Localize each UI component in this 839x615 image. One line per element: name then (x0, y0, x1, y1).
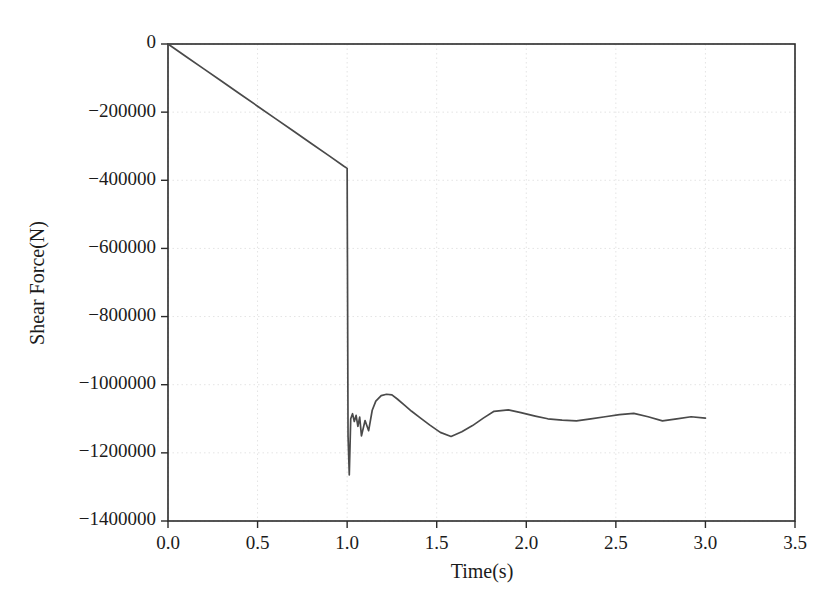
x-axis-title: Time(s) (451, 560, 514, 583)
x-tick-label: 1.5 (425, 532, 449, 553)
y-tick-label: −1400000 (79, 508, 156, 529)
chart-figure: 0.00.51.01.52.02.53.03.50−200000−400000−… (0, 0, 839, 615)
x-tick-label: 3.5 (783, 532, 807, 553)
y-tick-label: −1000000 (79, 372, 156, 393)
x-tick-label: 2.5 (604, 532, 628, 553)
y-tick-label: −600000 (88, 236, 156, 257)
y-tick-label: −400000 (88, 168, 156, 189)
y-tick-label: −200000 (88, 100, 156, 121)
shear-force-time-plot: 0.00.51.01.52.02.53.03.50−200000−400000−… (0, 0, 839, 615)
x-tick-label: 2.0 (514, 532, 538, 553)
y-axis-title: Shear Force(N) (26, 221, 49, 345)
x-tick-label: 3.0 (694, 532, 718, 553)
y-tick-label: −800000 (88, 304, 156, 325)
y-tick-label: 0 (147, 31, 157, 52)
x-tick-label: 0.0 (156, 532, 180, 553)
y-tick-label: −1200000 (79, 440, 156, 461)
x-tick-label: 0.5 (246, 532, 270, 553)
x-tick-label: 1.0 (335, 532, 359, 553)
